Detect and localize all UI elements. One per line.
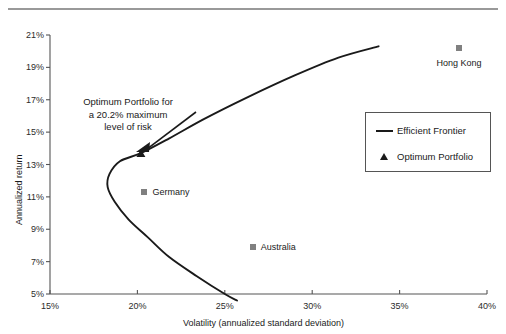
y-axis-ticks bbox=[46, 35, 50, 294]
optimum-portfolio-annotation: Optimum Portfolio for a 20.2% maximum le… bbox=[62, 96, 194, 134]
x-tick-label: 15% bbox=[41, 301, 59, 311]
y-tick-label: 7% bbox=[12, 257, 44, 267]
country-label-germany: Germany bbox=[152, 187, 189, 197]
country-label-australia: Australia bbox=[261, 242, 296, 252]
x-tick-label: 35% bbox=[391, 301, 409, 311]
x-tick-label: 40% bbox=[478, 301, 496, 311]
y-tick-label: 5% bbox=[12, 289, 44, 299]
y-axis-title: Annualized return bbox=[14, 154, 24, 225]
triangle-key-icon bbox=[374, 153, 394, 160]
x-tick-label: 20% bbox=[128, 301, 146, 311]
y-tick-label: 19% bbox=[12, 62, 44, 72]
line-key-icon bbox=[374, 130, 394, 132]
y-tick-label: 15% bbox=[12, 127, 44, 137]
annotation-line-3: level of risk bbox=[62, 121, 194, 134]
legend-label-efficient-frontier: Efficient Frontier bbox=[397, 125, 466, 136]
x-tick-label: 25% bbox=[216, 301, 234, 311]
legend-label-optimum-portfolio: Optimum Portfolio bbox=[397, 151, 473, 162]
country-marker-germany bbox=[141, 189, 147, 195]
x-tick-label: 30% bbox=[303, 301, 321, 311]
x-axis-ticks bbox=[50, 290, 487, 294]
y-tick-label: 17% bbox=[12, 95, 44, 105]
x-axis-title: Volatility (annualized standard deviatio… bbox=[183, 318, 344, 328]
efficient-frontier-chart: 5%7%9%11%13%15%17%19%21% 15%20%25%30%35%… bbox=[0, 0, 506, 334]
y-tick-label: 9% bbox=[12, 224, 44, 234]
legend-entry-optimum-portfolio: Optimum Portfolio bbox=[374, 151, 473, 162]
annotation-line-2: a 20.2% maximum bbox=[62, 109, 194, 122]
legend-entry-efficient-frontier: Efficient Frontier bbox=[374, 125, 466, 136]
country-marker-australia bbox=[250, 244, 256, 250]
chart-legend: Efficient Frontier Optimum Portfolio bbox=[365, 112, 491, 172]
efficient-frontier-curve bbox=[107, 46, 378, 300]
y-tick-label: 21% bbox=[12, 30, 44, 40]
country-label-hong-kong: Hong Kong bbox=[437, 58, 482, 68]
annotation-line-1: Optimum Portfolio for bbox=[62, 96, 194, 109]
country-marker-hong-kong bbox=[456, 45, 462, 51]
